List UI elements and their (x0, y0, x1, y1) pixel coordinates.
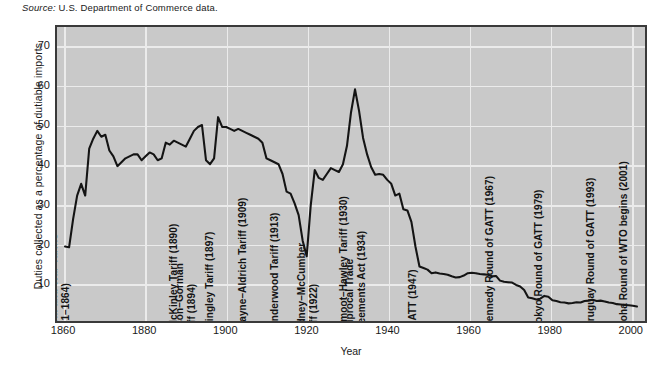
chart-annotation: Uruguay Round of GATT (1993) (585, 178, 597, 323)
y-tick-label: 20 (20, 238, 50, 250)
chart-annotation: Kennedy Round of GATT (1967) (483, 176, 495, 323)
y-tick-label: 40 (20, 158, 50, 170)
y-tick-label: 10 (20, 277, 50, 289)
source-note-prefix: Source: (22, 2, 56, 13)
x-tick-label: 1980 (520, 324, 580, 336)
chart-annotation: Underwood Tariff (1913) (269, 212, 281, 323)
x-tick-label: 1940 (357, 324, 417, 336)
x-tick-label: 1900 (195, 324, 255, 336)
source-note: Source: U.S. Department of Commerce data… (22, 2, 218, 13)
x-axis-title: Year (55, 345, 647, 357)
y-tick-label: 30 (20, 198, 50, 210)
x-tick-label: 1860 (33, 324, 93, 336)
y-tick-label: 60 (20, 79, 50, 91)
x-tick-label: 1920 (276, 324, 336, 336)
chart-plot-area: Morrill and War Tariffs (1861–1864)McKin… (55, 25, 647, 323)
chart-plot-inner: Morrill and War Tariffs (1861–1864)McKin… (57, 27, 645, 321)
chart-annotation: Morrill and War Tariffs (1861–1864) (55, 234, 72, 323)
chart-annotation: Tokyo Round of GATT (1979) (532, 190, 544, 323)
chart-annotation: Reciprocal Trade Agreements Act (1934) (344, 231, 368, 323)
chart-annotation: Fordney–McCumber Tariff (1922) (296, 243, 320, 323)
chart-annotation: Dingley Tariff (1897) (204, 232, 216, 323)
x-tick-label: 1880 (114, 324, 174, 336)
chart-annotation: Payne–Aldrich Tariff (1909) (236, 198, 248, 323)
y-tick-label: 70 (20, 39, 50, 51)
chart-annotation: Doha Round of WTO begins (2001) (617, 161, 629, 323)
chart-annotation: Wilson–Gorman Tariff (1894) (174, 263, 198, 323)
y-tick-label: 50 (20, 118, 50, 130)
source-note-text: U.S. Department of Commerce data. (56, 2, 218, 13)
x-tick-label: 2000 (601, 324, 661, 336)
y-axis-tick-labels: 10203040506070 (20, 25, 50, 335)
x-axis-tick-labels: 18601880190019201940196019802000 (0, 324, 661, 344)
chart-annotation: GATT (1947) (406, 269, 418, 323)
x-tick-label: 1960 (439, 324, 499, 336)
